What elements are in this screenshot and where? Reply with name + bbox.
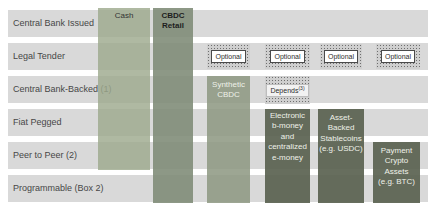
optional-badge-asset-backed-stablecoins: Optional bbox=[320, 44, 362, 69]
optional-badge-label: Optional bbox=[324, 50, 358, 63]
bar-cbdc-retail: CBDC Retail bbox=[153, 8, 193, 203]
row-label-central-bank-issued: Central Bank Issued bbox=[13, 10, 94, 37]
optional-badge-label: Optional bbox=[270, 50, 304, 63]
bar-label-cbdc-retail: CBDC Retail bbox=[153, 8, 193, 32]
bar-asset-backed-stablecoins: Asset- Backed Stablecoins (e.g. USDC) bbox=[318, 109, 364, 203]
optional-badge-label: Optional bbox=[211, 50, 245, 63]
optional-badge-synthetic-cbdc: Optional bbox=[207, 44, 250, 69]
row-label-legal-tender: Legal Tender bbox=[13, 43, 65, 70]
depends-footnote-mark: (3) bbox=[298, 84, 304, 90]
bar-label-asset-backed-stablecoins: Asset- Backed Stablecoins (e.g. USDC) bbox=[318, 109, 364, 155]
bar-payment-crypto-assets: Payment Crypto Assets (e.g. BTC) bbox=[373, 142, 420, 203]
bar-cash: Cash bbox=[98, 8, 150, 170]
money-taxonomy-figure: Central Bank Issued Legal Tender Central… bbox=[0, 0, 430, 210]
optional-badge-payment-crypto-assets: Optional bbox=[376, 44, 420, 69]
bar-electronic-b-money: Electronic b-money and centralized e-mon… bbox=[265, 109, 310, 203]
depends-text: Depends bbox=[270, 87, 298, 94]
row-central-bank-issued: Central Bank Issued bbox=[8, 10, 428, 37]
row-label-central-bank-backed: Central Bank-Backed (1) bbox=[13, 76, 112, 103]
bar-label-electronic-b-money: Electronic b-money and centralized e-mon… bbox=[265, 109, 310, 163]
depends-badge-electronic-b-money: Depends(3) bbox=[265, 76, 310, 104]
bar-synthetic-cbdc: Synthetic CBDC bbox=[207, 76, 250, 203]
bar-label-synthetic-cbdc: Synthetic CBDC bbox=[207, 76, 250, 101]
depends-badge-label: Depends(3) bbox=[266, 84, 308, 97]
optional-badge-label: Optional bbox=[381, 50, 415, 63]
bar-label-cash: Cash bbox=[98, 8, 150, 21]
bar-label-payment-crypto-assets: Payment Crypto Assets (e.g. BTC) bbox=[373, 142, 420, 188]
row-label-peer-to-peer: Peer to Peer (2) bbox=[13, 142, 77, 169]
row-label-programmable: Programmable (Box 2) bbox=[13, 175, 104, 202]
row-label-fiat-pegged: Fiat Pegged bbox=[13, 109, 62, 136]
optional-badge-electronic-b-money: Optional bbox=[265, 44, 310, 69]
